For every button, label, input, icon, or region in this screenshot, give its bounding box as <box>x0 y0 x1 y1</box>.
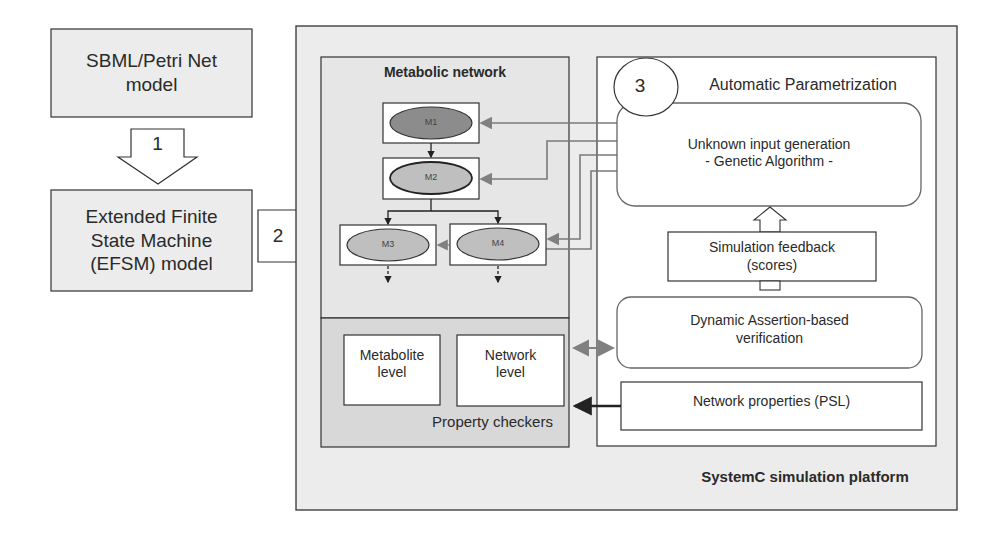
network-level-label: Network level <box>457 335 564 393</box>
metabolic-network-title: Metabolic network <box>321 62 569 84</box>
m1-label: M1 <box>390 115 472 131</box>
efsm-model-label: Extended Finite State Machine (EFSM) mod… <box>51 190 252 291</box>
step3-label: 3 <box>620 72 660 100</box>
metabolite-level-label: Metabolite level <box>344 335 440 393</box>
dynamic-verification-label: Dynamic Assertion-based verification <box>617 297 922 362</box>
property-checkers-title: Property checkers <box>420 410 565 434</box>
simulation-feedback-label: Simulation feedback (scores) <box>668 232 876 281</box>
network-properties-label: Network properties (PSL) <box>621 382 922 422</box>
m3-label: M3 <box>347 237 429 253</box>
systemc-platform-title: SystemC simulation platform <box>670 464 940 490</box>
step2-label: 2 <box>258 210 298 262</box>
step1-label: 1 <box>131 131 184 157</box>
m2-label: M2 <box>390 170 472 186</box>
m4-label: M4 <box>457 236 539 252</box>
feedback-stem <box>760 281 780 290</box>
automatic-parametrization-title: Automatic Parametrization <box>683 73 923 97</box>
sbml-model-label: SBML/Petri Net model <box>51 29 252 117</box>
unknown-input-label: Unknown input generation - Genetic Algor… <box>617 118 921 188</box>
